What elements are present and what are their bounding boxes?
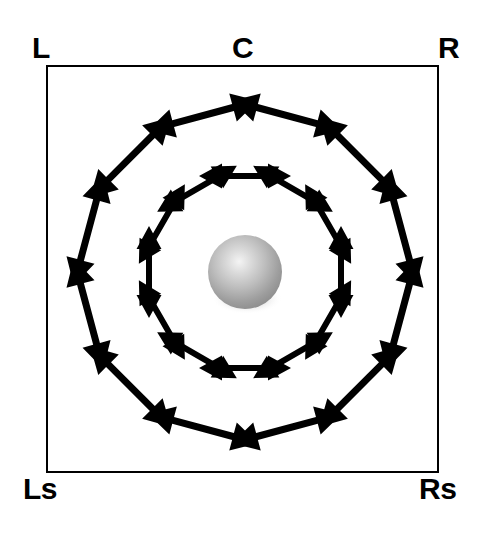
speaker-label-center: C [232,33,253,63]
listener-sphere [208,235,282,309]
speaker-label-left: L [32,33,50,63]
speaker-label-left-surround: Ls [23,474,57,504]
speaker-label-right: R [438,33,459,63]
figure-root: L C R Ls Rs [0,0,493,534]
diagram-canvas [0,0,493,534]
speaker-label-right-surround: Rs [419,474,456,504]
